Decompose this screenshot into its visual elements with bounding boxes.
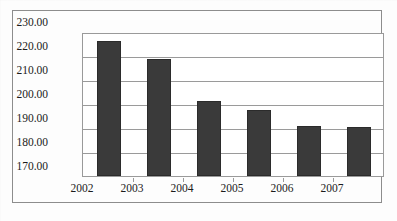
gridline-180 (83, 153, 383, 154)
bar-2005 (247, 110, 271, 176)
plot-area (82, 33, 384, 177)
x-axis-label-2005: 2005 (207, 183, 257, 195)
chart-outer-frame: 230.00 220.00 210.00 200.00 190.00 180.0… (12, 10, 382, 203)
y-axis-tick-label-170: 170.00 (0, 161, 48, 173)
x-axis-label-2002: 2002 (57, 183, 107, 195)
x-axis-label-2006: 2006 (257, 183, 307, 195)
bar-2002 (97, 41, 121, 176)
y-axis-tick-label-200: 200.00 (0, 89, 48, 101)
bar-2004 (197, 101, 221, 176)
bar-2007 (347, 127, 371, 176)
y-axis-tick-label-210: 210.00 (0, 65, 48, 77)
chart-screenshot: 230.00 220.00 210.00 200.00 190.00 180.0… (0, 0, 397, 221)
y-axis-tick-label-220: 220.00 (0, 41, 48, 53)
gridline-190 (83, 129, 383, 130)
bar-2003 (147, 59, 171, 176)
y-axis-tick-label-180: 180.00 (0, 137, 48, 149)
gridline-210 (83, 81, 383, 82)
x-axis-label-2007: 2007 (307, 183, 357, 195)
gridline-200 (83, 105, 383, 106)
x-axis-label-2004: 2004 (157, 183, 207, 195)
y-axis-tick-label-230: 230.00 (0, 17, 48, 29)
bar-2006 (297, 126, 321, 176)
y-axis-tick-label-190: 190.00 (0, 113, 48, 125)
gridline-220 (83, 57, 383, 58)
x-axis-label-2003: 2003 (107, 183, 157, 195)
